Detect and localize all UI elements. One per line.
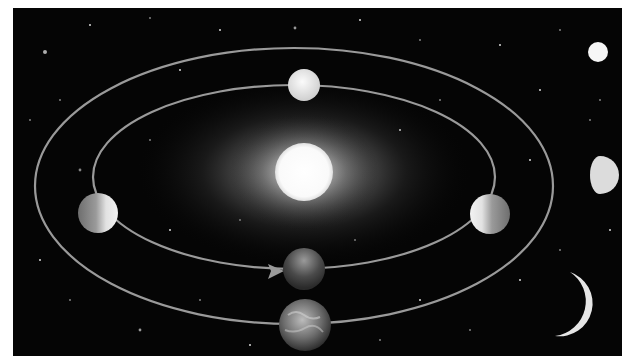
venus-left: [78, 193, 118, 233]
venus-far: [288, 69, 320, 101]
venus-phases-diagram: [0, 0, 637, 364]
phase-full: [588, 42, 608, 62]
phase-half: [590, 156, 619, 194]
phase-crescent: [555, 272, 593, 336]
venus-right: [470, 194, 510, 234]
direction-arrow-icon: [268, 264, 284, 279]
earth: [279, 299, 331, 351]
venus-near: [283, 248, 325, 290]
sun: [275, 143, 333, 201]
